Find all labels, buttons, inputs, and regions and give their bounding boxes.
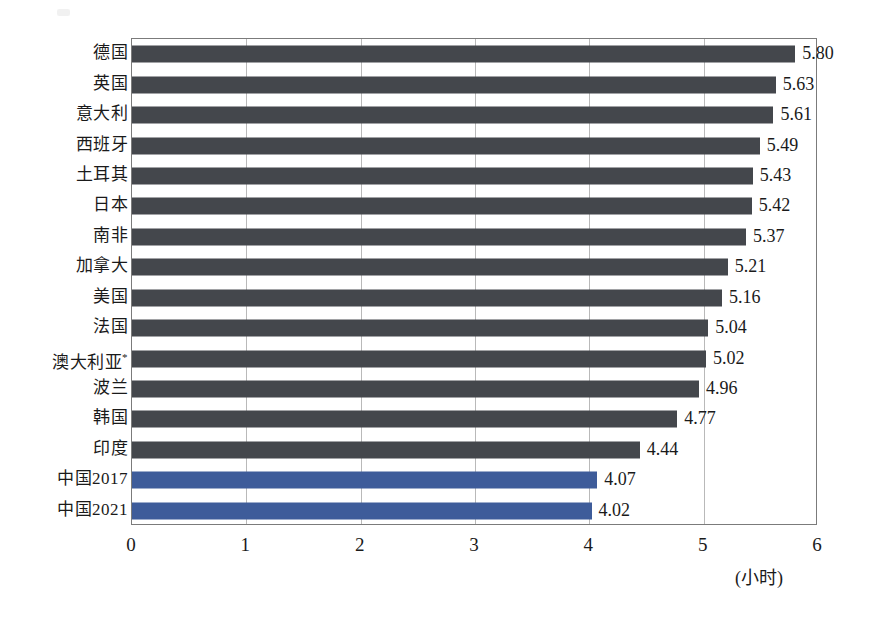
value-label: 4.07 — [604, 470, 636, 488]
x-axis-unit-label: (小时) — [735, 563, 783, 589]
value-label: 5.16 — [729, 288, 761, 306]
x-tick-label: 1 — [225, 534, 265, 556]
value-label: 4.44 — [647, 440, 679, 458]
value-label: 5.43 — [760, 166, 792, 184]
value-label: 5.02 — [713, 349, 745, 367]
value-label: 5.61 — [780, 105, 812, 123]
x-tick-label: 3 — [454, 534, 494, 556]
value-label: 5.37 — [753, 227, 785, 245]
value-label: 5.63 — [783, 75, 815, 93]
value-label: 4.02 — [599, 501, 631, 519]
value-label: 5.21 — [735, 257, 767, 275]
x-tick-label: 2 — [340, 534, 380, 556]
x-tick-label: 4 — [568, 534, 608, 556]
bar-chart: 德国英国意大利西班牙土耳其日本南非加拿大美国法国澳大利亚*波兰韩国印度中国201… — [0, 0, 889, 620]
x-tick-label: 0 — [111, 534, 151, 556]
value-labels: 5.805.635.615.495.435.425.375.215.165.04… — [0, 38, 889, 525]
value-label: 5.04 — [715, 318, 747, 336]
x-axis-tick-labels: 0123456 — [0, 534, 889, 562]
value-label: 5.80 — [802, 44, 834, 62]
value-label: 4.77 — [684, 409, 716, 427]
value-label: 5.42 — [759, 196, 791, 214]
value-label: 5.49 — [767, 136, 799, 154]
scan-artifact — [57, 9, 70, 16]
x-tick-label: 5 — [683, 534, 723, 556]
value-label: 4.96 — [706, 379, 738, 397]
x-tick-label: 6 — [797, 534, 837, 556]
